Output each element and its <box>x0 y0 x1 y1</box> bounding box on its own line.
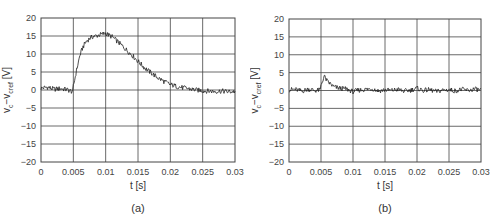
x-tick-label: 0.01 <box>97 167 115 177</box>
x-axis-label: t [s] <box>377 180 393 191</box>
x-tick-label: 0.03 <box>472 167 490 177</box>
x-tick-label: 0.025 <box>191 167 214 177</box>
y-tick-label: 20 <box>26 13 36 23</box>
y-tick-label: −5 <box>26 103 36 113</box>
chart-a-svg: 20151050−5−10−15−2000.0050.010.0150.020.… <box>0 0 250 222</box>
x-tick-label: 0.02 <box>408 167 426 177</box>
y-axis-label: vc−vcref [V] <box>250 67 262 113</box>
y-tick-label: −20 <box>21 157 36 167</box>
y-tick-label: 15 <box>274 32 284 42</box>
y-tick-label: 5 <box>279 68 284 78</box>
panel-caption: (b) <box>378 202 391 214</box>
chart-panel-a: 20151050−5−10−15−2000.0050.010.0150.020.… <box>0 0 250 222</box>
y-axis-label: vc−vcref [V] <box>1 67 14 113</box>
y-tick-label: 15 <box>26 31 36 41</box>
y-tick-label: −10 <box>21 121 36 131</box>
y-tick-label: 10 <box>26 49 36 59</box>
y-tick-label: 10 <box>274 50 284 60</box>
x-tick-label: 0.02 <box>162 167 180 177</box>
panel-caption: (a) <box>131 202 144 214</box>
y-tick-label: −15 <box>21 139 36 149</box>
y-tick-label: 0 <box>31 85 36 95</box>
x-tick-label: 0 <box>286 167 291 177</box>
x-tick-label: 0.015 <box>127 167 150 177</box>
x-tick-label: 0.005 <box>310 167 333 177</box>
x-tick-label: 0.03 <box>226 167 244 177</box>
y-tick-label: 5 <box>31 67 36 77</box>
x-tick-label: 0.025 <box>438 167 461 177</box>
x-tick-label: 0.015 <box>374 167 397 177</box>
y-tick-label: 0 <box>279 86 284 96</box>
y-tick-label: −20 <box>269 157 284 167</box>
y-tick-label: −5 <box>274 103 284 113</box>
chart-panel-b: 20151050−5−10−15−2000.0050.010.0150.020.… <box>250 0 500 222</box>
y-tick-label: −15 <box>269 139 284 149</box>
x-axis-label: t [s] <box>130 180 146 191</box>
chart-b-svg: 20151050−5−10−15−2000.0050.010.0150.020.… <box>250 0 501 222</box>
y-tick-label: 20 <box>274 14 284 24</box>
x-tick-label: 0.01 <box>344 167 362 177</box>
x-tick-label: 0.005 <box>62 167 85 177</box>
x-tick-label: 0 <box>38 167 43 177</box>
y-tick-label: −10 <box>269 121 284 131</box>
